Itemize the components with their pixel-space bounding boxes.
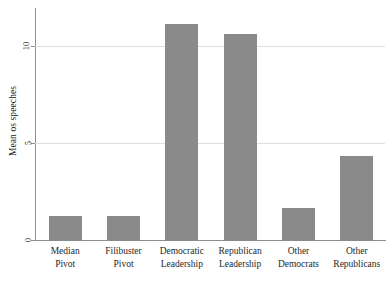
x-tick-label-other-republicans: Other Republicans xyxy=(328,245,386,287)
y-tick-label-10: 10 xyxy=(21,42,31,51)
x-tick-label-line1: Republican xyxy=(219,246,262,256)
bar-series xyxy=(36,8,386,241)
x-tick-label-republican-leadership: Republican Leadership xyxy=(211,245,269,287)
x-tick-label-line1: Democratic xyxy=(160,246,204,256)
x-tick-label-line1: Filibuster xyxy=(105,246,141,256)
x-tick-label-other-democrats: Other Democrats xyxy=(269,245,327,287)
bar-slot-other-democrats xyxy=(269,8,327,241)
bar-median-pivot xyxy=(49,216,82,241)
x-tick-label-line2: Pivot xyxy=(94,258,152,271)
bar-other-democrats xyxy=(282,208,315,241)
bar-chart-figure: Mean os speeches 10 5 0 xyxy=(0,0,392,289)
x-tick-label-median-pivot: Median Pivot xyxy=(36,245,94,287)
x-tick-label-line2: Leadership xyxy=(153,258,211,271)
y-tick-label-0: 0 xyxy=(23,238,33,242)
y-axis-title-text: Mean os speeches xyxy=(8,85,18,155)
bar-slot-democratic-leadership xyxy=(153,8,211,241)
x-tick-label-filibuster-pivot: Filibuster Pivot xyxy=(94,245,152,287)
x-tick-label-line1: Other xyxy=(288,246,310,256)
x-tick-label-line2: Pivot xyxy=(36,258,94,271)
bar-slot-other-republicans xyxy=(328,8,386,241)
bar-slot-republican-leadership xyxy=(211,8,269,241)
y-axis-title: Mean os speeches xyxy=(0,0,26,241)
y-tick-label-5: 5 xyxy=(23,141,33,145)
x-axis-tick-labels: Median Pivot Filibuster Pivot Democratic… xyxy=(36,245,386,287)
x-tick-label-line2: Republicans xyxy=(328,258,386,271)
x-tick-label-line2: Leadership xyxy=(211,258,269,271)
x-tick-label-line1: Median xyxy=(51,246,80,256)
bar-republican-leadership xyxy=(224,34,257,241)
plot-area: 10 5 0 xyxy=(35,8,386,241)
x-tick-label-democratic-leadership: Democratic Leadership xyxy=(153,245,211,287)
bar-slot-median-pivot xyxy=(36,8,94,241)
x-tick-label-line1: Other xyxy=(346,246,368,256)
bar-slot-filibuster-pivot xyxy=(94,8,152,241)
bar-other-republicans xyxy=(340,156,373,241)
x-tick-label-line2: Democrats xyxy=(269,258,327,271)
bar-democratic-leadership xyxy=(165,24,198,241)
bar-filibuster-pivot xyxy=(107,216,140,241)
